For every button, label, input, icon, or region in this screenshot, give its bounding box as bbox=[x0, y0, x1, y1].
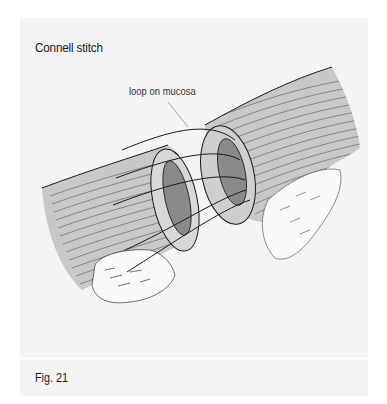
annotation-leader-line bbox=[168, 102, 188, 127]
figure-caption: Fig. 21 bbox=[35, 371, 68, 385]
connell-stitch-illustration bbox=[0, 0, 387, 404]
annotation-label: loop on mucosa bbox=[129, 85, 196, 97]
left-mesentery bbox=[92, 250, 175, 303]
figure-title: Connell stitch bbox=[35, 40, 103, 55]
